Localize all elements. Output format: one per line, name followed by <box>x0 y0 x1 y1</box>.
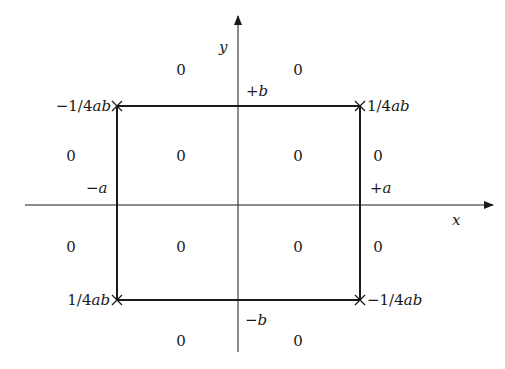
label-minus-a: −a <box>86 179 108 197</box>
region-value: 0 <box>66 147 76 165</box>
corner-value-top-left: −1/4ab <box>56 97 111 115</box>
region-value: 0 <box>293 332 303 350</box>
x-axis-label: x <box>452 211 461 229</box>
region-value: 0 <box>176 332 186 350</box>
region-value: 0 <box>293 238 303 256</box>
y-axis-label: y <box>218 38 228 56</box>
corner-value-bottom-left: 1/4ab <box>67 291 110 309</box>
region-value: 0 <box>373 238 383 256</box>
corner-value-bottom-right: −1/4ab <box>367 291 422 309</box>
label-plus-b-text: +b <box>246 82 268 100</box>
region-value: 0 <box>176 61 186 79</box>
corner-value-top-right: 1/4ab <box>367 97 410 115</box>
region-value: 0 <box>293 147 303 165</box>
label-minus-b: −b <box>245 311 267 329</box>
region-value: 0 <box>373 147 383 165</box>
region-value: 0 <box>176 238 186 256</box>
rectangle-diagram: y x +b −b −a +a −1/4ab 1/4ab 1/4ab −1/4a… <box>0 0 505 369</box>
region-value: 0 <box>176 147 186 165</box>
region-value: 0 <box>66 238 76 256</box>
region-value: 0 <box>293 61 303 79</box>
label-plus-b: +b <box>246 82 268 100</box>
label-plus-a: +a <box>370 179 392 197</box>
